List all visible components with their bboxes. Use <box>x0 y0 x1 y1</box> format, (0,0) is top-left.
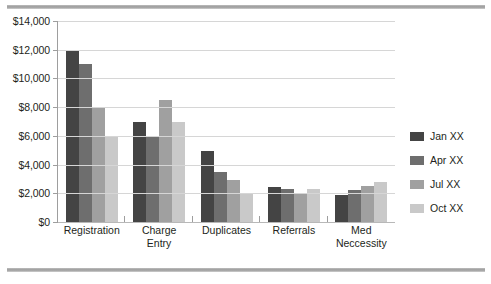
gridline <box>58 78 395 79</box>
bar[interactable] <box>348 190 361 222</box>
grouped-bar-chart: $0$2,000$4,000$6,000$8,000$10,000$12,000… <box>0 14 491 264</box>
gridline <box>58 222 395 223</box>
bar[interactable] <box>361 186 374 222</box>
bar[interactable] <box>79 64 92 222</box>
x-axis-category-label: ChargeEntry <box>125 224 192 250</box>
legend-label: Apr XX <box>430 154 463 166</box>
legend-item[interactable]: Jul XX <box>410 172 488 196</box>
bar[interactable] <box>105 136 118 222</box>
y-axis-tick-mark <box>53 136 58 137</box>
gridline <box>58 193 395 194</box>
bar-group-bars <box>260 21 327 222</box>
y-axis-tick-label: $2,000 <box>18 187 50 199</box>
bar-group <box>58 21 125 222</box>
y-axis-tick-label: $10,000 <box>13 72 50 84</box>
y-axis-tick-label: $0 <box>39 216 50 228</box>
chart-legend: Jan XXApr XXJul XXOct XX <box>410 124 488 220</box>
top-divider-rule <box>7 5 485 9</box>
y-axis-tick-mark <box>53 222 58 223</box>
bar-group-bars <box>328 21 395 222</box>
bar-group-bars <box>58 21 125 222</box>
bar[interactable] <box>335 195 348 222</box>
gridline <box>58 21 395 22</box>
bar[interactable] <box>294 193 307 222</box>
x-axis-category-label: Registration <box>58 224 125 250</box>
bar-groups <box>58 21 395 222</box>
gridline <box>58 165 395 166</box>
bar-group-bars <box>193 21 260 222</box>
y-axis-tick-label: $14,000 <box>13 15 50 27</box>
x-axis-category-label-line: Duplicates <box>193 224 260 237</box>
chart-page: $0$2,000$4,000$6,000$8,000$10,000$12,000… <box>0 0 491 284</box>
bar-group-bars <box>125 21 192 222</box>
legend-swatch <box>410 132 424 141</box>
bar[interactable] <box>159 100 172 222</box>
y-axis-tick-label: $8,000 <box>18 101 50 113</box>
bar[interactable] <box>240 194 253 222</box>
bar[interactable] <box>133 122 146 222</box>
y-axis-tick-label: $12,000 <box>13 44 50 56</box>
bar-group <box>125 21 192 222</box>
x-axis-category-label: Duplicates <box>193 224 260 250</box>
bar-group <box>260 21 327 222</box>
x-axis-category-label-line: Entry <box>125 237 192 250</box>
bar[interactable] <box>227 180 240 222</box>
legend-swatch <box>410 156 424 165</box>
bar-group <box>193 21 260 222</box>
x-axis-category-label-line: Med <box>328 224 395 237</box>
gridline <box>58 107 395 108</box>
y-axis-tick-labels: $0$2,000$4,000$6,000$8,000$10,000$12,000… <box>0 14 56 222</box>
bar[interactable] <box>268 187 281 222</box>
x-axis-category-label: MedNeccessity <box>328 224 395 250</box>
bar[interactable] <box>201 151 214 222</box>
y-axis-tick-mark <box>53 193 58 194</box>
x-axis-category-label-line: Neccessity <box>328 237 395 250</box>
bottom-divider-rule <box>7 268 485 272</box>
bar-group <box>328 21 395 222</box>
x-axis-category-labels: RegistrationChargeEntryDuplicatesReferra… <box>58 224 395 250</box>
bar[interactable] <box>146 136 159 222</box>
legend-label: Oct XX <box>430 202 463 214</box>
y-axis-tick-mark <box>53 21 58 22</box>
legend-swatch <box>410 204 424 213</box>
y-axis-tick-label: $4,000 <box>18 159 50 171</box>
x-axis-category-label-line: Referrals <box>260 224 327 237</box>
x-axis-category-label-line: Charge <box>125 224 192 237</box>
legend-item[interactable]: Jan XX <box>410 124 488 148</box>
y-axis-tick-mark <box>53 78 58 79</box>
plot-area <box>58 21 395 222</box>
y-axis-tick-mark <box>53 107 58 108</box>
legend-item[interactable]: Oct XX <box>410 196 488 220</box>
bar[interactable] <box>214 172 227 222</box>
gridline <box>58 50 395 51</box>
y-axis-tick-label: $6,000 <box>18 130 50 142</box>
legend-label: Jul XX <box>430 178 460 190</box>
bar[interactable] <box>374 182 387 222</box>
y-axis-tick-mark <box>53 165 58 166</box>
legend-label: Jan XX <box>430 130 464 142</box>
gridline <box>58 136 395 137</box>
x-axis-category-label: Referrals <box>260 224 327 250</box>
legend-item[interactable]: Apr XX <box>410 148 488 172</box>
y-axis-tick-mark <box>53 50 58 51</box>
legend-swatch <box>410 180 424 189</box>
x-axis-category-label-line: Registration <box>58 224 125 237</box>
